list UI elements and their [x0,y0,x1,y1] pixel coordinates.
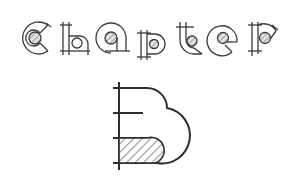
letter-r-glyph [248,22,278,56]
chapter-illustration [0,0,289,180]
letter-c-glyph [23,22,51,54]
chapter-letter-b-glyph [113,82,190,170]
letter-p-glyph [137,30,165,60]
letter-t-glyph [176,22,202,54]
letter-e-glyph [207,26,237,56]
letter-h-glyph [60,22,90,55]
letter-a-glyph [96,23,130,53]
